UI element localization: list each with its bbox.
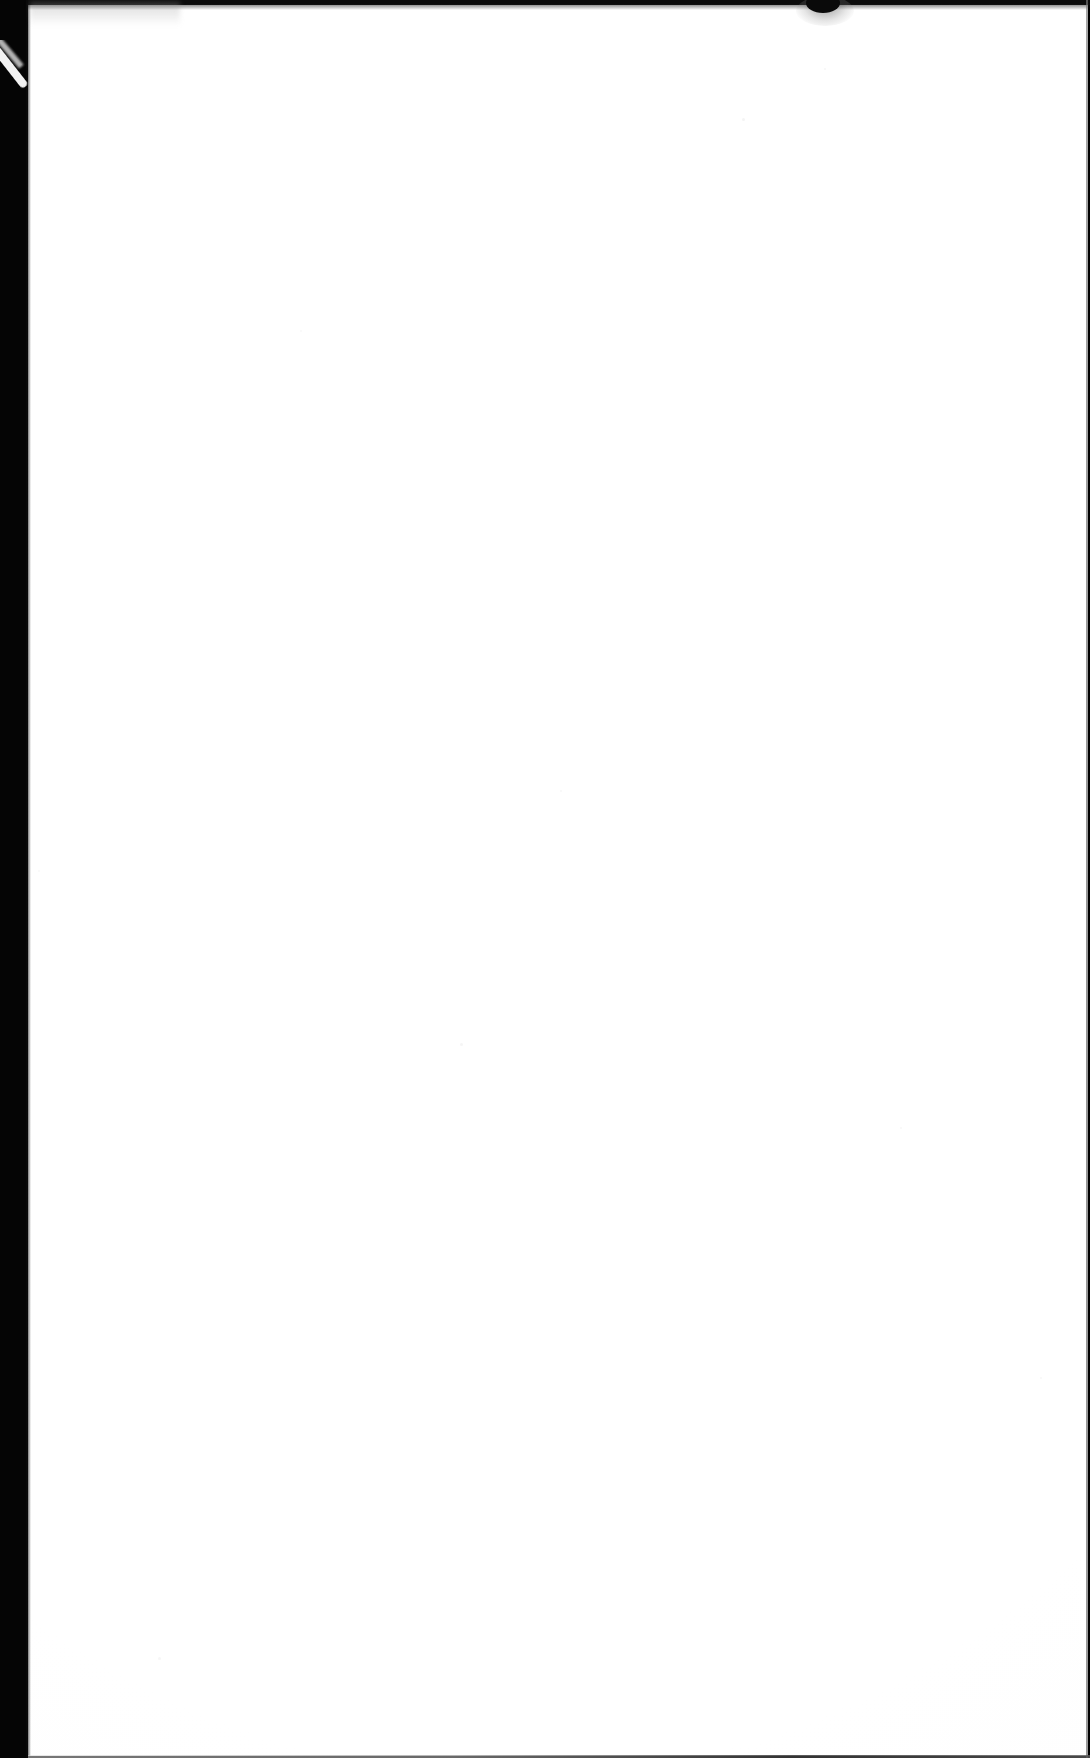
corner-fold-sliver-artifact xyxy=(0,40,38,104)
scanner-bed-top-border xyxy=(0,0,1090,5)
scanner-bed-left-border xyxy=(0,0,28,1758)
page-right-edge-rule xyxy=(1086,0,1088,1758)
paper-sheet xyxy=(28,5,1088,1756)
page-content-area xyxy=(28,5,1088,1756)
scanned-page-canvas xyxy=(0,0,1090,1758)
